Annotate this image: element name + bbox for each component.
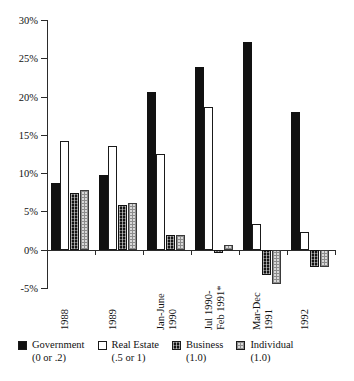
bar-business	[118, 205, 127, 250]
legend-sublabel: (.5 or 1)	[112, 352, 160, 365]
y-axis-tick-label: -5%	[0, 283, 38, 294]
bar-individual	[176, 235, 185, 250]
legend-sublabel: (1.0)	[186, 352, 223, 365]
bar-real-estate	[60, 141, 69, 250]
bar-individual	[80, 190, 89, 250]
bar-government	[195, 67, 204, 250]
legend-item-government[interactable]: Government(0 or .2)	[18, 339, 85, 364]
legend-swatch-icon	[18, 341, 27, 350]
bar-government	[291, 112, 300, 250]
x-axis-tick	[47, 250, 48, 255]
x-axis-category-label: Jul 1990-Feb 1991*	[203, 285, 226, 330]
legend-item-individual[interactable]: Individual(1.0)	[236, 339, 293, 364]
bar-real-estate	[156, 154, 165, 250]
x-axis-category-label: Mar-Dec1991	[251, 292, 274, 330]
legend-swatch-icon	[98, 341, 107, 350]
bar-individual	[128, 203, 137, 250]
y-axis-tick-label: 20%	[0, 91, 38, 102]
bar-real-estate	[204, 107, 213, 249]
y-axis-tick-label: 5%	[0, 206, 38, 217]
bar-individual	[224, 245, 233, 250]
bar-chart: 30%25%20%15%10%5%0%-5% 19881989Jan-June1…	[0, 0, 354, 381]
bar-real-estate	[300, 232, 309, 250]
x-axis-tick	[143, 250, 144, 255]
legend-label: Business	[186, 339, 223, 350]
x-axis-category-label: 1988	[59, 309, 71, 330]
bar-business	[214, 250, 223, 253]
legend-swatch-icon	[236, 341, 245, 350]
x-axis-tick	[287, 250, 288, 255]
y-axis-tick-label: 10%	[0, 168, 38, 179]
bar-government	[147, 92, 156, 250]
legend-sublabel: (1.0)	[250, 352, 293, 365]
legend-sublabel: (0 or .2)	[32, 352, 85, 365]
y-axis-tick-label: 0%	[0, 244, 38, 255]
plot-area	[47, 20, 335, 288]
x-axis-tick	[335, 250, 336, 255]
bar-business	[70, 193, 79, 250]
bar-business	[310, 250, 319, 267]
bar-business	[262, 250, 271, 275]
bar-government	[99, 175, 108, 249]
y-axis-tick-label: 15%	[0, 129, 38, 140]
bar-individual	[320, 250, 329, 267]
bar-business	[166, 235, 175, 250]
y-axis-tick	[41, 288, 48, 289]
legend-swatch-icon	[172, 341, 181, 350]
legend-label: Government	[32, 339, 85, 350]
x-axis-tick	[95, 250, 96, 255]
x-axis-category-label: Jan-June1990	[155, 293, 178, 330]
y-axis-tick-label: 30%	[0, 15, 38, 26]
x-axis-category-label: 1992	[299, 309, 311, 330]
x-axis-tick	[191, 250, 192, 255]
bar-real-estate	[252, 224, 261, 250]
x-axis-category-label: 1989	[107, 309, 119, 330]
legend-item-business[interactable]: Business(1.0)	[172, 339, 223, 364]
legend-item-real-estate[interactable]: Real Estate(.5 or 1)	[98, 339, 160, 364]
y-axis-tick-label: 25%	[0, 53, 38, 64]
x-axis-tick	[239, 250, 240, 255]
bar-real-estate	[108, 146, 117, 250]
bar-individual	[272, 250, 281, 284]
legend-label: Real Estate	[112, 339, 160, 350]
chart-legend: Government(0 or .2)Real Estate(.5 or 1)B…	[18, 339, 354, 364]
bar-government	[51, 183, 60, 250]
bar-government	[243, 42, 252, 250]
legend-label: Individual	[250, 339, 293, 350]
